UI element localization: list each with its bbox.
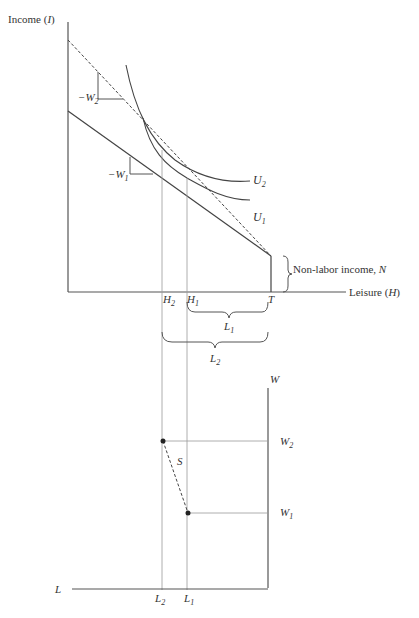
slope-triangle-w1: [130, 157, 153, 174]
brace-l1: [187, 302, 268, 318]
l2-tick-label: L2: [154, 592, 165, 607]
w1-tick-label: W1: [280, 506, 293, 521]
supply-curve-s: [163, 441, 188, 513]
slope-label-w2: −W2: [78, 91, 99, 106]
labor-supply-diagram: Income (I) Leisure (H) −W2 −W1 U2 U1 Non…: [0, 0, 419, 618]
point-w1: [186, 511, 191, 516]
u2-label: U2: [253, 173, 266, 189]
nonlabor-brace: [283, 256, 292, 292]
t-label: T: [268, 293, 275, 305]
brace-l2: [162, 332, 268, 348]
nonlabor-label: Non-labor income, N: [293, 263, 387, 275]
w2-tick-label: W2: [280, 435, 293, 450]
l-axis-label: L: [54, 583, 61, 595]
indifference-curve-u1: [143, 118, 250, 200]
l1-brace-label: L1: [223, 320, 234, 335]
income-axis-label: Income (I): [8, 13, 55, 26]
s-label: S: [177, 455, 183, 467]
point-w2: [161, 439, 166, 444]
leisure-axis-label: Leisure (H): [349, 286, 400, 299]
h1-label: H1: [186, 293, 199, 308]
u1-label: U1: [253, 210, 266, 226]
slope-label-w1: −W1: [108, 168, 129, 183]
l2-brace-label: L2: [209, 352, 220, 367]
budget-line-w1: [68, 111, 271, 256]
w-axis-label: W: [270, 373, 280, 385]
h2-label: H2: [162, 293, 175, 308]
l1-tick-label: L1: [183, 592, 194, 607]
